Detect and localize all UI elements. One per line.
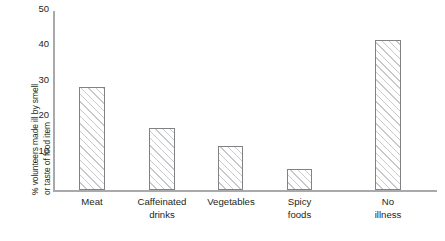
y-tick-label-20: 20 (3, 110, 49, 120)
y-tick-label-10: 10 (3, 146, 49, 156)
bar-chart: % volunteers made ill by smell or taste … (0, 0, 445, 241)
plot-area (55, 8, 437, 190)
x-tick-label-no-illness: No illness (353, 196, 423, 221)
y-tick-label-30: 30 (3, 75, 49, 85)
x-axis-tick-labels: Meat Caffeinated drinks Vegetables Spicy… (55, 196, 437, 241)
x-axis-line (53, 190, 437, 192)
bar-spicy-foods (287, 169, 312, 190)
x-tick-label-vegetables: Vegetables (195, 196, 267, 209)
y-tick-label-40: 40 (3, 39, 49, 49)
bar-meat (79, 87, 105, 190)
y-tick-label-50: 50 (3, 4, 49, 14)
bar-no-illness (375, 40, 401, 190)
x-tick-label-caffeinated-drinks: Caffeinated drinks (117, 196, 207, 221)
bar-vegetables (218, 146, 243, 190)
x-tick-label-spicy-foods: Spicy foods (267, 196, 332, 221)
bar-caffeinated-drinks (149, 128, 175, 190)
y-axis-tick-labels: 50 40 30 20 10 (0, 0, 49, 200)
